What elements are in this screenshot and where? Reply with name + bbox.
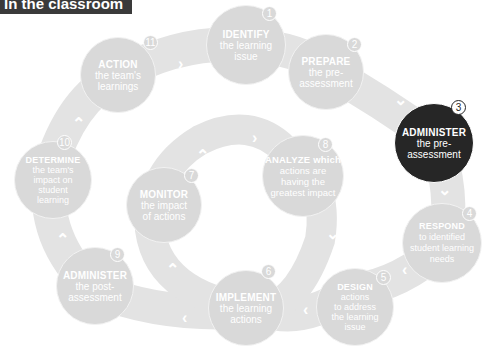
step-7-number: 7	[184, 168, 199, 183]
arrow-up-icon: ⌃	[166, 262, 179, 278]
arrow-left-icon: ‹	[182, 310, 187, 326]
step-3-number: 3	[451, 100, 466, 115]
arrow-down-icon: ⌄	[326, 226, 339, 242]
step-9-number: 9	[110, 247, 125, 262]
step-5-number: 5	[376, 270, 391, 285]
arrow-right-icon: ›	[252, 130, 257, 146]
arrow-right-icon: ›	[178, 56, 183, 72]
step-6-number: 6	[261, 264, 276, 279]
step-10-determine: DETERMINE the team's impact on student l…	[14, 141, 92, 219]
arrow-left-icon: ‹	[303, 302, 308, 318]
step-11-action: ACTION the team's learnings	[80, 37, 156, 113]
arrow-down-icon: ⌄	[438, 182, 451, 198]
arrow-up-icon: ⌃	[196, 148, 209, 164]
step-1-number: 1	[262, 6, 277, 21]
arrow-up-icon: ⌃	[56, 232, 69, 248]
step-4-number: 4	[462, 206, 477, 221]
step-8-number: 8	[318, 137, 333, 152]
step-6-implement: IMPLEMENT the learning actions	[208, 270, 284, 346]
step-2-number: 2	[347, 37, 362, 52]
arrow-up-icon: ⌃	[72, 116, 85, 132]
step-3-administer-pre-assessment: ADMINISTER the pre- assessment	[394, 103, 474, 183]
arrow-left-icon: ‹	[402, 262, 407, 278]
arrow-down-icon: ⌄	[394, 92, 407, 108]
step-10-number: 10	[57, 135, 72, 150]
step-11-number: 11	[143, 35, 158, 50]
